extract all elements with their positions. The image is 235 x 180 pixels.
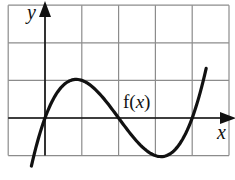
function-graph: y x f(x)	[0, 0, 235, 180]
function-label: f(x)	[123, 91, 150, 113]
y-axis-label: y	[25, 1, 36, 24]
function-label-f: f(	[123, 91, 136, 113]
function-label-close: )	[144, 91, 150, 113]
axes	[8, 1, 235, 156]
y-axis-arrow-icon	[39, 1, 51, 17]
x-axis-label: x	[216, 121, 226, 143]
